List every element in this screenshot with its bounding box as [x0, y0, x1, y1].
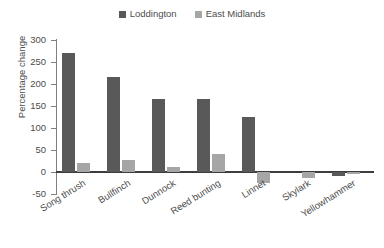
bar-east-midlands-song-thrush	[77, 163, 90, 172]
bar-east-midlands-bullfinch	[122, 160, 135, 172]
plot-area	[56, 40, 372, 194]
y-axis-tick-label: 0	[12, 167, 46, 177]
chart-legend: Loddington East Midlands	[0, 9, 384, 19]
legend-item-east-midlands: East Midlands	[195, 9, 266, 19]
y-axis-tick-label: 100	[12, 123, 46, 133]
legend-label-loddington: Loddington	[130, 9, 177, 19]
legend-item-loddington: Loddington	[119, 9, 177, 19]
bar-east-midlands-yellowhammer	[347, 172, 360, 174]
y-axis-tick-label: 300	[12, 35, 46, 45]
bar-loddington-reed-bunting	[197, 99, 210, 172]
y-axis-tick-label: 50	[12, 145, 46, 155]
y-axis-tick-label: 200	[12, 79, 46, 89]
y-axis-tick-label: 250	[12, 57, 46, 67]
legend-swatch-loddington	[119, 11, 126, 18]
bar-loddington-song-thrush	[62, 53, 75, 172]
bar-east-midlands-reed-bunting	[212, 154, 225, 172]
bar-loddington-bullfinch	[107, 77, 120, 172]
bar-loddington-dunnock	[152, 99, 165, 172]
legend-swatch-east-midlands	[195, 11, 202, 18]
bar-chart: Loddington East Midlands Percentage chan…	[0, 0, 384, 248]
bar-loddington-linnet	[242, 117, 255, 172]
bar-east-midlands-dunnock	[167, 167, 180, 172]
y-axis-tick-label: -50	[12, 189, 46, 199]
legend-label-east-midlands: East Midlands	[206, 9, 266, 19]
bar-loddington-yellowhammer	[332, 172, 345, 176]
y-axis-tick-label: 150	[12, 101, 46, 111]
